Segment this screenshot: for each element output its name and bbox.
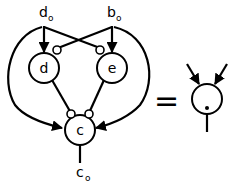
equivalent-neuron [187, 64, 227, 132]
edge-b0-to-d-inhibitory [58, 27, 112, 48]
inhibitory-synapse-icon [96, 46, 104, 54]
svg-text:c: c [76, 164, 84, 180]
svg-text:o: o [48, 13, 54, 23]
svg-text:e: e [108, 60, 117, 76]
threshold-dot-icon [205, 106, 209, 110]
edge-d-to-c-inhibitory [52, 80, 71, 113]
output-label-c0: c o [76, 164, 91, 183]
inhibitory-synapse-icon [67, 110, 75, 118]
edge-d0-to-e-inhibitory [44, 27, 100, 48]
neural-net-diagram: d o b o d e c c o = [0, 0, 240, 188]
inhibitory-synapse-icon [53, 46, 61, 54]
equals-sign: = [154, 83, 179, 118]
svg-text:b: b [107, 4, 116, 20]
svg-text:c: c [76, 122, 84, 138]
node-c: c [65, 115, 95, 145]
inhibitory-synapse-icon [85, 110, 93, 118]
node-d: d [29, 53, 59, 83]
svg-text:o: o [85, 173, 91, 183]
node-e: e [97, 53, 127, 83]
svg-text:d: d [40, 60, 49, 76]
edge-e-to-c-inhibitory [89, 80, 104, 113]
svg-text:o: o [116, 13, 122, 23]
input-label-d0: d o [39, 4, 54, 23]
input-label-b0: b o [107, 4, 122, 23]
svg-text:d: d [39, 4, 48, 20]
